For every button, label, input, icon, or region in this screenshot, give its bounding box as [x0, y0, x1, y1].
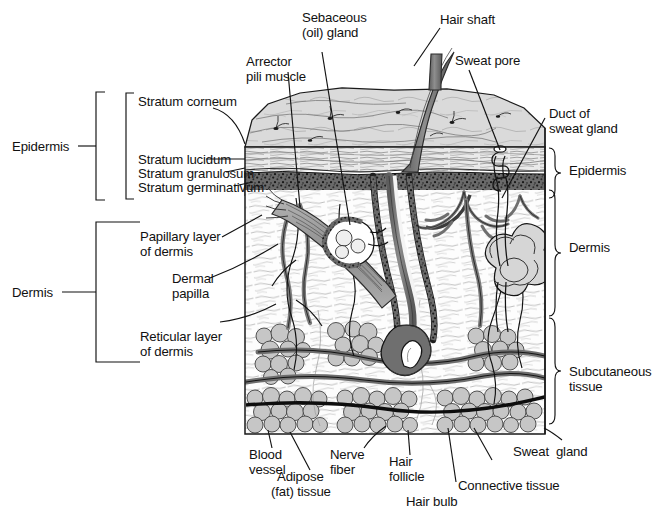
leader-hair-bulb [448, 428, 456, 482]
label-duct-line1: Duct of [549, 106, 590, 121]
label-reticular-layer-line2: of dermis [140, 344, 193, 359]
leader-arrector-pili [288, 72, 300, 207]
label-stratum-granulosum: Stratum granulosum [138, 166, 254, 181]
bracket-dermis-left [96, 222, 140, 362]
leader-duct-of-sweat-gland [502, 118, 545, 198]
label-sebaceous-line1: Sebaceous [302, 10, 367, 25]
label-hair-shaft: Hair shaft [440, 12, 495, 27]
label-epidermis-right: Epidermis [569, 163, 626, 178]
bracket-subcutaneous-right [549, 318, 561, 424]
bracket-strata [126, 93, 134, 199]
label-arrector-line2: pili muscle [246, 69, 306, 84]
leader-nerve-fiber [364, 426, 386, 448]
leader-sweat-gland [544, 428, 562, 440]
leader-sebaceous-gland [322, 52, 350, 225]
label-hair-bulb: Hair bulb [406, 494, 457, 509]
bracket-dermis-right [549, 190, 561, 316]
label-epidermis-left: Epidermis [12, 139, 69, 154]
label-adipose-line1: Adipose [277, 469, 324, 484]
label-sweat-gland: Sweat gland [513, 444, 587, 459]
label-connective-tissue: Connective tissue [458, 478, 560, 493]
label-stratum-corneum: Stratum corneum [138, 94, 237, 109]
label-nerve-fiber-line1: Nerve [330, 447, 364, 462]
label-nerve-fiber-line2: fiber [330, 462, 355, 477]
leader-papillary-layer [222, 215, 262, 237]
leader-hair-shaft [414, 28, 440, 66]
leader-stratum-corneum [213, 108, 245, 144]
label-stratum-germinativum: Stratum germinativum [138, 180, 264, 195]
label-papillary-layer-line1: Papillary layer [140, 229, 221, 244]
label-dermal-papilla-line1: Dermal [172, 271, 214, 286]
leader-adipose-tissue [290, 432, 310, 470]
label-stratum-lucidum: Stratum lucidum [138, 152, 231, 167]
label-papillary-layer-line2: of dermis [140, 244, 193, 259]
annotation-lines [0, 0, 669, 521]
label-sweat-pore: Sweat pore [455, 53, 520, 68]
label-duct-line2: sweat gland [549, 121, 618, 136]
leader-reticular-layer [220, 304, 276, 322]
label-dermis-right: Dermis [569, 240, 610, 255]
leader-hair-follicle [408, 430, 410, 455]
label-blood-vessel-line1: Blood [249, 447, 282, 462]
skin-diagram-figure: Epidermis Dermis Stratum corneum Stratum… [0, 0, 669, 521]
label-reticular-layer-line1: Reticular layer [140, 329, 222, 344]
label-hair-follicle-line1: Hair [389, 454, 413, 469]
label-dermis-left: Dermis [12, 285, 53, 300]
label-sebaceous-line2: (oil) gland [302, 25, 358, 40]
bracket-epidermis-left [96, 92, 105, 200]
leader-dermal-papilla [210, 244, 278, 278]
label-arrector-line1: Arrector [246, 54, 292, 69]
label-hair-follicle-line2: follicle [389, 469, 424, 484]
label-subcutaneous-line1: Subcutaneous [569, 364, 652, 379]
label-dermal-papilla-line2: papilla [172, 286, 209, 301]
label-subcutaneous-line2: tissue [569, 379, 603, 394]
leader-blood-vessel [268, 430, 272, 448]
leader-connective-tissue [474, 428, 492, 460]
leader-sweat-pore [469, 70, 500, 150]
label-adipose-line2: (fat) tissue [271, 484, 331, 499]
